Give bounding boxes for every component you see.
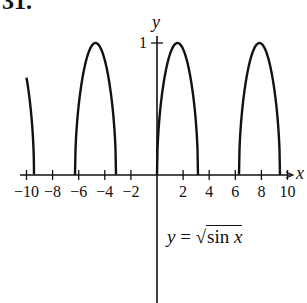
curve-segment: [239, 43, 280, 175]
x-tick-label: 8: [257, 183, 265, 200]
sqrt-symbol: √: [196, 226, 206, 247]
formula-x: x: [234, 226, 242, 247]
formula-y: y: [167, 226, 175, 247]
y-axis-label: y: [150, 12, 160, 32]
formula-sin: sin: [207, 226, 229, 247]
x-tick-label: −4: [96, 183, 113, 200]
x-tick-label: 10: [280, 183, 296, 200]
x-tick-label: 6: [231, 183, 239, 200]
formula-label: y = √sin x: [167, 226, 242, 248]
curve-segment: [75, 43, 116, 175]
x-tick-label: −6: [70, 183, 87, 200]
x-tick-label: −10: [14, 183, 39, 200]
radicand: sin x: [206, 225, 242, 247]
curve-segment: [27, 78, 35, 175]
x-tick-label: 2: [179, 183, 187, 200]
x-axis-label: x: [295, 163, 304, 183]
y-tick-label: 1: [139, 34, 147, 51]
plot-area: −10−8−6−4−22468101xy: [0, 0, 307, 303]
curve-segment: [157, 43, 198, 175]
x-tick-label: 4: [205, 183, 213, 200]
x-tick-label: −2: [122, 183, 139, 200]
x-tick-label: −8: [44, 183, 61, 200]
